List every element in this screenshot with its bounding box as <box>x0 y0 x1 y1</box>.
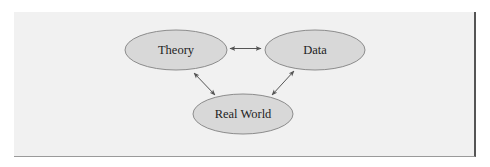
node-real-world-shape <box>193 94 293 134</box>
node-data-shape <box>265 30 365 70</box>
node-theory-shape <box>125 30 227 70</box>
edge-theory-realworld-arrow <box>194 73 215 95</box>
edge-data-realworld-arrow <box>272 71 294 95</box>
diagram-canvas <box>0 0 490 167</box>
